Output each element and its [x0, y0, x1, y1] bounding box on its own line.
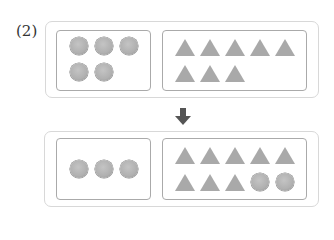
- circle-shape: [70, 160, 88, 178]
- circle-shape: [70, 37, 88, 55]
- triangle-shape: [250, 39, 270, 56]
- problem-label: (2): [16, 22, 37, 40]
- triangle-shape: [175, 174, 195, 191]
- triangle-shape: [175, 39, 195, 56]
- before-right-box: [162, 30, 307, 91]
- triangle-shape: [225, 65, 245, 82]
- after-right-box: [162, 138, 307, 200]
- triangle-shape: [175, 147, 195, 164]
- circle-shape: [120, 160, 138, 178]
- circle-shape: [276, 173, 294, 191]
- circle-shape: [95, 160, 113, 178]
- triangle-shape: [225, 39, 245, 56]
- triangle-shape: [225, 147, 245, 164]
- circle-shape: [95, 63, 113, 81]
- circle-shape: [251, 173, 269, 191]
- triangle-shape: [200, 147, 220, 164]
- triangle-shape: [200, 39, 220, 56]
- circle-shape: [95, 37, 113, 55]
- triangle-shape: [275, 39, 295, 56]
- circle-shape: [120, 37, 138, 55]
- before-left-box: [56, 30, 151, 91]
- triangle-shape: [200, 65, 220, 82]
- triangle-shape: [200, 174, 220, 191]
- circle-shape: [70, 63, 88, 81]
- down-arrow-icon: [175, 108, 191, 126]
- after-left-box: [56, 138, 151, 200]
- triangle-shape: [250, 147, 270, 164]
- triangle-shape: [175, 65, 195, 82]
- triangle-shape: [225, 174, 245, 191]
- triangle-shape: [275, 147, 295, 164]
